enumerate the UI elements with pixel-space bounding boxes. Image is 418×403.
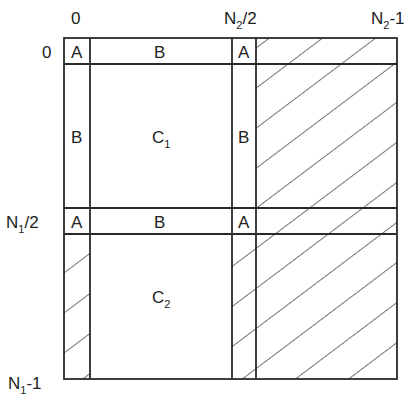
cell-b-right: B (238, 128, 249, 147)
cell-a-mid-left: A (71, 213, 83, 232)
matrix-partition-diagram: 0 N2/2 N2-1 0 N1/2 N1-1 A B A B C1 B A B… (0, 0, 418, 403)
cell-b-left: B (71, 128, 82, 147)
cell-a-top-right: A (238, 43, 250, 62)
left-label-n1-half: N1/2 (6, 213, 39, 235)
cell-a-mid-right: A (238, 213, 250, 232)
left-label-n1-minus-1: N1-1 (8, 374, 42, 396)
cell-c2: C2 (152, 288, 170, 310)
hatched-region-left-bottom (64, 234, 90, 379)
hatched-region-mid-bottom (232, 234, 256, 379)
left-label-0: 0 (42, 43, 51, 62)
cell-a-top-left: A (71, 43, 83, 62)
cell-b-mid: B (154, 213, 165, 232)
top-label-n2-half: N2/2 (224, 9, 257, 31)
top-label-0: 0 (71, 9, 80, 28)
cell-c1: C1 (152, 128, 170, 150)
top-label-n2-minus-1: N2-1 (371, 9, 405, 31)
cell-b-top: B (154, 43, 165, 62)
